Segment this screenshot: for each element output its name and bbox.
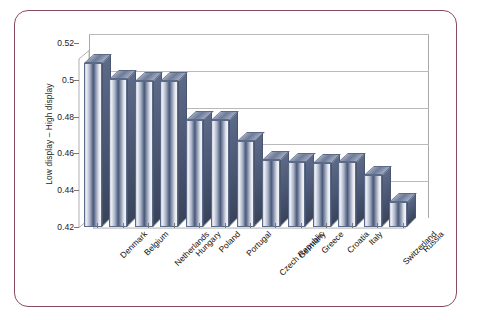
bar-front-face xyxy=(109,79,127,227)
x-tick-mark xyxy=(275,223,276,228)
x-tick-label: Russia xyxy=(421,229,446,254)
bar-poland xyxy=(186,120,204,227)
x-tick-mark xyxy=(301,223,302,228)
y-tick-label: 0.52 xyxy=(57,38,74,48)
chart-figure-frame: Low display – High display 0.420.440.460… xyxy=(14,10,457,307)
x-tick-mark xyxy=(123,223,124,228)
bar-croatia xyxy=(313,163,331,227)
bar-germany xyxy=(262,160,280,227)
y-tick-label: 0.46 xyxy=(57,148,74,158)
x-tick-label: Portugal xyxy=(244,229,273,258)
bar-netherlands xyxy=(135,81,153,227)
x-tick-mark xyxy=(97,223,98,228)
x-tick-mark xyxy=(250,223,251,228)
x-tick-label: Italy xyxy=(367,229,385,247)
x-tick-label: Croatia xyxy=(345,229,371,255)
bar-czech-republic xyxy=(237,141,255,227)
bar-denmark xyxy=(84,63,102,227)
bar-front-face xyxy=(364,175,382,227)
bar-front-face xyxy=(338,162,356,227)
bar-russia xyxy=(389,202,407,227)
x-tick-mark xyxy=(199,223,200,228)
x-tick-mark xyxy=(352,223,353,228)
bar-front-face xyxy=(262,160,280,227)
bar-hungary xyxy=(160,81,178,227)
bar-front-face xyxy=(288,162,306,227)
x-axis-labels: DenmarkBelgiumNetherlandsHungaryPolandPo… xyxy=(79,229,439,320)
bar-front-face xyxy=(211,120,229,227)
x-tick-mark xyxy=(225,223,226,228)
bar-series xyxy=(79,43,419,227)
y-tick-label: 0.42 xyxy=(57,222,74,232)
x-tick-mark xyxy=(174,223,175,228)
bar-portugal xyxy=(211,120,229,227)
y-tick-label: 0.44 xyxy=(57,185,74,195)
x-tick-mark xyxy=(403,223,404,228)
bar-front-face xyxy=(84,63,102,227)
y-tick-label: 0.5 xyxy=(62,75,74,85)
gridline xyxy=(89,34,429,35)
bar-front-face xyxy=(160,81,178,227)
y-axis-title: Low display – High display xyxy=(44,54,54,214)
y-tick-mark xyxy=(74,227,79,228)
y-tick-label: 0.48 xyxy=(57,112,74,122)
bar-front-face xyxy=(135,81,153,227)
x-tick-label: Denmark xyxy=(118,229,149,260)
x-tick-mark xyxy=(148,223,149,228)
bar-switzerland xyxy=(364,175,382,227)
bar-greece xyxy=(288,162,306,227)
bar-front-face xyxy=(313,163,331,227)
bar-front-face xyxy=(237,141,255,227)
bar-front-face xyxy=(389,202,407,227)
bar-belgium xyxy=(109,79,127,227)
x-tick-mark xyxy=(377,223,378,228)
x-tick-mark xyxy=(326,223,327,228)
bar-italy xyxy=(338,162,356,227)
bar-front-face xyxy=(186,120,204,227)
plot-area: 0.420.440.460.480.50.52 xyxy=(79,43,429,227)
